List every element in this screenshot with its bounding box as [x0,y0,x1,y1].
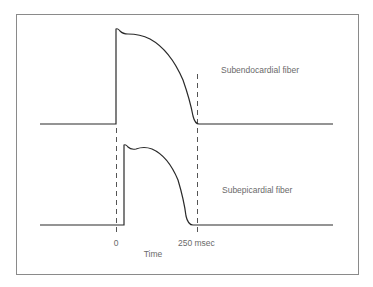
diagram-frame [17,15,359,275]
action-potential-diagram: Subendocardial fiber Subepicardial fiber… [0,0,373,287]
subepicardial-label: Subepicardial fiber [222,185,293,195]
subendocardial-label: Subendocardial fiber [221,65,299,75]
tick-label-250: 250 msec [178,238,216,248]
tick-label-0: 0 [114,238,119,248]
time-axis-label: Time [144,249,163,259]
subendocardial-trace [40,29,333,124]
